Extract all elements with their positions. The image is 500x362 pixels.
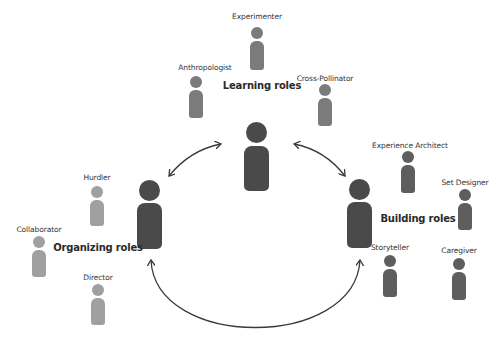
role-label-set-designer: Set Designer xyxy=(441,178,488,187)
role-label-collaborator: Collaborator xyxy=(16,225,61,234)
arrow-organizing-building xyxy=(151,260,360,328)
role-label-director: Director xyxy=(83,273,112,282)
role-label-storyteller: Storyteller xyxy=(371,243,409,252)
role-label-hurdler: Hurdler xyxy=(83,173,110,182)
group-label-learning: Learning roles xyxy=(223,80,301,91)
role-label-caregiver: Caregiver xyxy=(441,246,476,255)
group-label-organizing: Organizing roles xyxy=(53,242,143,253)
arrow-learning-organizing xyxy=(169,144,221,176)
role-label-cross-pollinator: Cross-Pollinator xyxy=(297,74,354,83)
role-label-experimenter: Experimenter xyxy=(232,12,282,21)
roles-diagram: Experimenter Anthropologist Cross-Pollin… xyxy=(0,0,500,362)
role-label-anthropologist: Anthropologist xyxy=(178,63,231,72)
group-label-building: Building roles xyxy=(380,213,455,224)
role-label-experience-architect: Experience Architect xyxy=(372,141,448,150)
arrow-learning-building xyxy=(294,144,345,176)
